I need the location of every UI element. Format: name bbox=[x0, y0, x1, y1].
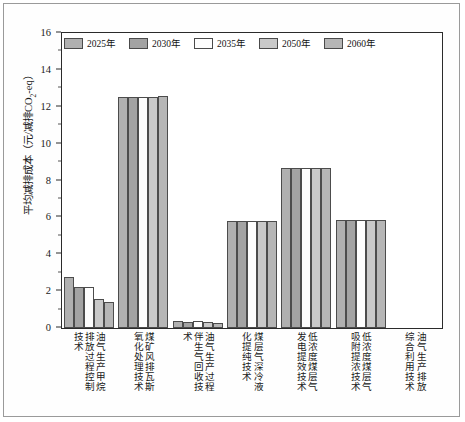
bar-groups bbox=[62, 33, 442, 328]
bar[interactable] bbox=[311, 168, 321, 328]
x-category-label: 煤层气深冷液化提纯技术 bbox=[225, 332, 279, 422]
x-category-label: 油气生产排放综合利用技术 bbox=[388, 332, 442, 422]
x-category-label-column: 化提纯技术 bbox=[241, 332, 251, 422]
bar-group bbox=[333, 33, 387, 328]
y-tick-label: 14 bbox=[41, 63, 52, 74]
x-category-label: 油气生产过程伴生气回收技术 bbox=[171, 332, 225, 422]
bar-group bbox=[279, 33, 333, 328]
y-tick-label: 4 bbox=[46, 248, 51, 259]
bar[interactable] bbox=[281, 168, 291, 328]
bar-group bbox=[171, 33, 225, 328]
bar[interactable] bbox=[356, 220, 366, 328]
y-tick-label: 8 bbox=[46, 174, 51, 185]
bar[interactable] bbox=[64, 277, 74, 328]
bar[interactable] bbox=[84, 287, 94, 328]
x-category-label-column: 技术 bbox=[73, 332, 83, 422]
bar[interactable] bbox=[158, 96, 168, 328]
bar[interactable] bbox=[227, 221, 237, 328]
bar[interactable] bbox=[148, 97, 158, 328]
y-tick-label: 0 bbox=[46, 322, 51, 333]
x-category-label-column: 吸附提浓技术 bbox=[350, 332, 360, 422]
bar[interactable] bbox=[301, 168, 311, 328]
bar[interactable] bbox=[346, 220, 356, 328]
bar-group bbox=[225, 33, 279, 328]
bar[interactable] bbox=[321, 168, 331, 328]
bar[interactable] bbox=[193, 321, 203, 328]
bar[interactable] bbox=[173, 321, 183, 328]
x-category-label-column: 油气生产排放 bbox=[415, 332, 425, 422]
bar[interactable] bbox=[128, 97, 138, 328]
bar[interactable] bbox=[183, 322, 193, 328]
y-axis-ticks: 0246810121416 bbox=[4, 32, 61, 329]
y-tick-label: 16 bbox=[41, 27, 52, 38]
x-category-label-column: 术 bbox=[181, 332, 191, 422]
x-category-label-column: 低浓度煤层气 bbox=[307, 332, 317, 422]
x-category-label: 油气生产甲烷排放过程控制技术 bbox=[62, 332, 116, 422]
bar[interactable] bbox=[376, 220, 386, 328]
x-category-label: 低浓度煤层气发电提效技术 bbox=[279, 332, 333, 422]
y-tick-label: 2 bbox=[46, 285, 51, 296]
bar-group bbox=[388, 33, 442, 328]
x-category-label-column: 伴生气回收技 bbox=[193, 332, 203, 422]
bar[interactable] bbox=[237, 221, 247, 328]
x-category-label-column: 氧化处理技术 bbox=[133, 332, 143, 422]
bar[interactable] bbox=[118, 97, 128, 328]
y-tick-label: 12 bbox=[41, 100, 52, 111]
chart-frame: 平均减排成本（元/减排CO2-eq） 0246810121416 2025年20… bbox=[3, 3, 460, 417]
bar[interactable] bbox=[213, 323, 223, 328]
x-category-label-column: 煤矿风排瓦斯 bbox=[144, 332, 154, 422]
x-category-label-column: 排放过程控制 bbox=[84, 332, 94, 422]
bar-group bbox=[116, 33, 170, 328]
bar[interactable] bbox=[203, 322, 213, 328]
bar[interactable] bbox=[104, 302, 114, 328]
x-category-label: 煤矿风排瓦斯氧化处理技术 bbox=[116, 332, 170, 422]
bar[interactable] bbox=[291, 168, 301, 328]
x-category-label-column: 综合利用技术 bbox=[404, 332, 414, 422]
x-category-label-column: 低浓度煤层气 bbox=[361, 332, 371, 422]
bar[interactable] bbox=[267, 221, 277, 328]
bar[interactable] bbox=[94, 299, 104, 329]
bar-group bbox=[62, 33, 116, 328]
x-category-label-column: 煤层气深冷液 bbox=[252, 332, 262, 422]
bar[interactable] bbox=[74, 287, 84, 328]
x-category-label-column: 发电提效技术 bbox=[296, 332, 306, 422]
bar[interactable] bbox=[138, 97, 148, 328]
bar[interactable] bbox=[257, 221, 267, 328]
x-category-label: 低浓度煤层气吸附提浓技术 bbox=[333, 332, 387, 422]
x-axis-category-labels: 油气生产甲烷排放过程控制技术煤矿风排瓦斯氧化处理技术油气生产过程伴生气回收技术煤… bbox=[62, 332, 442, 422]
x-category-label-column: 油气生产过程 bbox=[204, 332, 214, 422]
bar[interactable] bbox=[336, 220, 346, 328]
y-tick-label: 6 bbox=[46, 211, 51, 222]
y-tick-label: 10 bbox=[41, 137, 52, 148]
bar[interactable] bbox=[366, 220, 376, 328]
bar[interactable] bbox=[247, 221, 257, 328]
x-category-label-column: 油气生产甲烷 bbox=[95, 332, 105, 422]
